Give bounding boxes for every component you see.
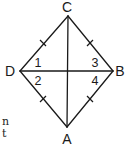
rhombus-diagram: C B A D 1 2 3 4 n t: [0, 0, 129, 147]
angle-label-4: 4: [92, 74, 99, 88]
angle-label-2: 2: [35, 74, 42, 88]
vertex-label-c: C: [62, 0, 72, 15]
vertex-label-d: D: [5, 63, 15, 79]
angle-label-3: 3: [92, 56, 99, 70]
text-fragment-t: t: [2, 127, 7, 140]
vertex-label-b: B: [115, 63, 124, 79]
angle-label-1: 1: [35, 56, 42, 70]
side-cb: [68, 16, 113, 71]
vertex-label-a: A: [62, 131, 72, 147]
